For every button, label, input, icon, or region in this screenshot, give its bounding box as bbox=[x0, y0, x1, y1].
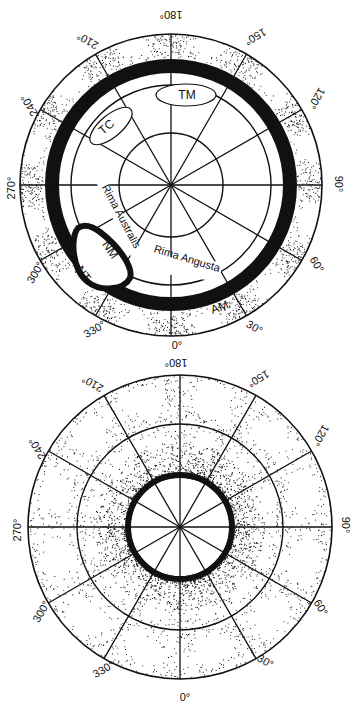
polar-grid bbox=[28, 375, 332, 679]
top-polar-map: TMTCRima AustralisNMNTRima AngustaAM180°… bbox=[5, 9, 345, 351]
feature-label-tm: TM bbox=[178, 88, 195, 102]
polar-grid bbox=[20, 34, 322, 336]
angle-label: 270° bbox=[11, 519, 23, 542]
angle-label: 180° bbox=[165, 357, 188, 369]
angle-label: 120° bbox=[306, 86, 328, 112]
angle-label: 150° bbox=[243, 26, 269, 48]
angle-label: 330° bbox=[82, 318, 108, 340]
angle-label: 180° bbox=[160, 9, 183, 21]
angle-label: 210° bbox=[75, 30, 101, 52]
angle-label: 330° bbox=[91, 658, 117, 680]
angle-label: 60° bbox=[308, 254, 327, 274]
angle-label: 0° bbox=[180, 691, 191, 703]
angle-label: 150° bbox=[246, 368, 272, 390]
angle-label: 240° bbox=[26, 436, 48, 462]
angle-label: 210° bbox=[80, 373, 106, 395]
angle-label: 90° bbox=[340, 517, 352, 534]
angle-label: 30° bbox=[244, 318, 264, 337]
bottom-polar-map: 180°150°120°90°60°30°0°330°300°270°240°2… bbox=[11, 357, 352, 703]
angle-label: 270° bbox=[5, 177, 17, 200]
angle-label: 30° bbox=[255, 652, 275, 671]
angle-label: 90° bbox=[333, 176, 345, 193]
angle-label: 240° bbox=[18, 93, 40, 119]
angle-label: 120° bbox=[310, 423, 332, 449]
polar-maps-figure: TMTCRima AustralisNMNTRima AngustaAM180°… bbox=[0, 0, 355, 708]
angle-label: 60° bbox=[312, 597, 331, 617]
angle-label: 0° bbox=[172, 339, 183, 351]
